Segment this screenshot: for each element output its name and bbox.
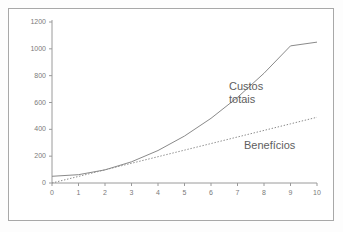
y-tick-label: 200 bbox=[16, 152, 46, 159]
x-tick-label: 0 bbox=[42, 189, 62, 196]
x-tick-label: 2 bbox=[95, 189, 115, 196]
y-tick-label: 600 bbox=[16, 99, 46, 106]
y-tick-label: 0 bbox=[16, 179, 46, 186]
y-tick-label: 1000 bbox=[16, 45, 46, 52]
chart-figure: 020040060080010001200 012345678910 Custo… bbox=[0, 0, 343, 232]
x-tick-label: 8 bbox=[254, 189, 274, 196]
x-tick-label: 9 bbox=[281, 189, 301, 196]
x-tick-label: 6 bbox=[201, 189, 221, 196]
y-tick-label: 800 bbox=[16, 72, 46, 79]
x-tick-label: 4 bbox=[148, 189, 168, 196]
x-tick-label: 1 bbox=[69, 189, 89, 196]
series-label-custos-totais: Custos totais bbox=[229, 80, 263, 106]
series-label-custos-line1: Custos bbox=[229, 80, 263, 93]
series-label-beneficios: Benefícios bbox=[244, 139, 295, 152]
y-tick-label: 1200 bbox=[16, 18, 46, 25]
series-label-custos-line2: totais bbox=[229, 93, 263, 106]
y-tick-label: 400 bbox=[16, 125, 46, 132]
chart-plot-area bbox=[0, 0, 343, 232]
x-tick-label: 5 bbox=[175, 189, 195, 196]
x-tick-label: 3 bbox=[122, 189, 142, 196]
x-tick-label: 10 bbox=[307, 189, 327, 196]
series-line-custos-totais bbox=[52, 42, 317, 176]
x-tick-label: 7 bbox=[228, 189, 248, 196]
